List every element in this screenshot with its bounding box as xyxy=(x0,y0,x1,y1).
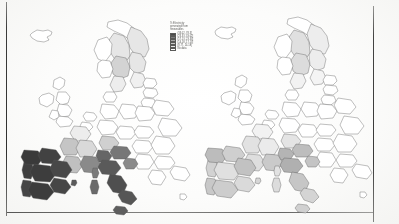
region-sweden-south xyxy=(110,76,126,92)
region-sicily xyxy=(295,204,310,213)
region-scotland xyxy=(53,77,65,90)
region-finland-north xyxy=(127,27,149,57)
region-lithuania xyxy=(321,95,336,105)
region-england-south xyxy=(238,114,255,125)
region-ukraine-edge xyxy=(340,116,364,134)
page-binding-line-left xyxy=(6,2,7,216)
region-cyprus xyxy=(360,192,367,198)
region-norway-south xyxy=(97,60,113,78)
region-sweden-south xyxy=(290,73,306,89)
region-france-centre xyxy=(258,138,279,155)
region-sicily xyxy=(113,206,128,215)
region-italy-south xyxy=(300,188,319,203)
region-turkey-edge xyxy=(170,166,190,181)
region-england-south xyxy=(56,116,73,127)
region-finland-north xyxy=(307,24,329,54)
region-england-mid xyxy=(239,102,254,115)
region-belarus-edge xyxy=(152,100,174,116)
map-panel-left: % Electricitygenerated fromrenewables (3… xyxy=(10,0,200,224)
region-finland-south xyxy=(130,72,146,88)
region-corsica xyxy=(92,168,99,178)
region-estonia xyxy=(323,75,337,85)
region-italy-north xyxy=(98,160,121,175)
region-slovakia xyxy=(134,126,154,138)
region-france-centre xyxy=(76,140,97,157)
scanned-page: % Electricitygenerated fromrenewables (3… xyxy=(0,0,399,224)
region-germany-mid xyxy=(97,120,118,135)
region-denmark xyxy=(103,92,117,102)
legend-label: No data xyxy=(177,48,186,51)
region-romania xyxy=(333,134,357,152)
region-norway-south xyxy=(277,57,293,75)
region-norway-west xyxy=(274,34,292,59)
region-greece xyxy=(330,168,348,183)
region-balkans xyxy=(316,152,336,167)
region-bulgaria xyxy=(336,154,357,167)
region-sardinia xyxy=(272,178,281,192)
region-germany-north xyxy=(282,102,301,117)
map-panel-right: % Electricitygenerated fromrenewables (3… xyxy=(202,0,374,224)
region-latvia xyxy=(323,85,338,95)
region-hungary xyxy=(132,140,153,153)
region-poland-east xyxy=(317,104,337,119)
region-greece xyxy=(148,170,166,185)
region-germany-mid xyxy=(279,118,300,133)
region-ireland xyxy=(39,93,54,107)
region-austria xyxy=(110,146,131,159)
region-germany-north xyxy=(100,104,119,119)
region-turkey-edge xyxy=(352,164,372,179)
region-hungary xyxy=(314,138,335,151)
region-iceland xyxy=(215,27,236,39)
region-cyprus xyxy=(180,194,187,200)
europe-map-right xyxy=(202,0,374,224)
region-belarus-edge xyxy=(334,98,356,114)
region-italy-south xyxy=(118,190,137,205)
region-finland-south xyxy=(310,69,326,85)
region-austria xyxy=(292,144,313,157)
region-netherlands xyxy=(83,112,97,121)
region-balkans xyxy=(134,154,154,169)
region-corsica xyxy=(274,166,281,176)
region-scotland xyxy=(235,75,247,88)
region-romania xyxy=(151,136,175,154)
region-england-north xyxy=(56,92,70,105)
region-bulgaria xyxy=(154,156,175,169)
region-latvia xyxy=(143,88,158,98)
region-iceland xyxy=(30,30,52,42)
region-italy-north xyxy=(280,158,303,173)
region-slovakia xyxy=(316,124,336,136)
region-estonia xyxy=(143,78,157,88)
region-england-mid xyxy=(57,104,72,117)
region-czechia xyxy=(116,126,136,139)
region-czechia xyxy=(298,124,318,137)
region-balearics xyxy=(71,180,77,186)
region-ukraine-edge xyxy=(158,118,182,136)
region-norway-west xyxy=(94,37,112,62)
region-england-north xyxy=(238,90,252,103)
region-ireland xyxy=(221,91,236,105)
region-sardinia xyxy=(90,180,99,194)
region-poland-east xyxy=(135,106,155,121)
region-netherlands xyxy=(265,110,279,119)
region-denmark xyxy=(285,90,299,100)
legend-swatch xyxy=(170,48,176,51)
region-balearics xyxy=(255,178,261,184)
